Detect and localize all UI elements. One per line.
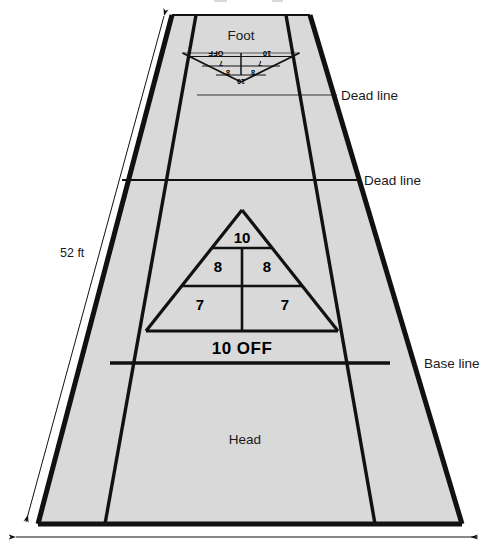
dead-line-near-label: Dead line [364,173,421,188]
base-line-label: Base line [424,356,480,371]
far-score-right-8: 8 [226,69,230,76]
far-score-off: OFF [208,49,223,58]
head-zone-label: Head [229,432,261,447]
far-score-10: 10 [263,49,271,58]
near-score-left-8: 8 [214,258,222,275]
near-score-apex-10: 10 [234,229,251,246]
court-svg: 52 ft Foot Head Dead line Dead line Base… [0,0,489,545]
far-score-left-7: 7 [258,60,262,67]
dead-line-far-label: Dead line [341,88,398,103]
near-score-right-7: 7 [281,296,289,313]
length-dimension-label: 52 ft [60,246,85,260]
court-surface [38,15,462,524]
foot-zone-label: Foot [227,28,254,43]
far-score-right-7: 7 [219,60,223,67]
far-score-apex-10: 10 [237,78,245,85]
far-score-left-8: 8 [251,69,255,76]
near-score-10-off: 10 OFF [212,339,273,358]
near-score-left-7: 7 [196,296,204,313]
shuffleboard-court-diagram: 52 ft Foot Head Dead line Dead line Base… [0,0,489,545]
near-score-right-8: 8 [263,258,271,275]
